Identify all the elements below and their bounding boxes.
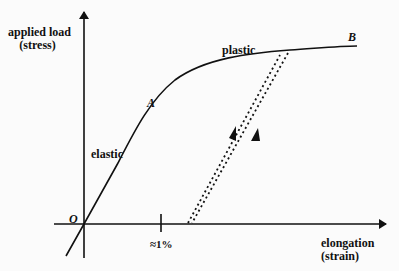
x-axis-label-line2: (strain)	[321, 250, 374, 263]
up-arrowhead-icon	[229, 126, 236, 141]
y-axis-label-line2: (stress)	[4, 39, 71, 52]
x-axis-label: elongation (strain)	[321, 237, 374, 263]
plastic-label: plastic	[222, 44, 255, 57]
y-axis-label: applied load (stress)	[8, 26, 71, 52]
origin-label: O	[69, 213, 78, 226]
elastic-label: elastic	[91, 148, 123, 161]
tick-label: ≈1%	[150, 238, 173, 251]
down-arrowhead-icon	[251, 128, 260, 141]
point-a-label: A	[147, 97, 155, 110]
unloading-path	[192, 53, 288, 223]
point-b-label: B	[348, 31, 356, 44]
stress-strain-diagram: applied load (stress) elongation (strain…	[0, 0, 399, 271]
